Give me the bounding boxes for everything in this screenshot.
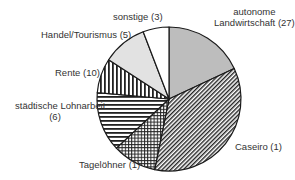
label-line: städtische Lohnarbeit	[15, 100, 95, 111]
label-tageloehner: Tagelöhner (1)	[79, 159, 140, 170]
label-sonstige: sonstige (3)	[113, 11, 163, 22]
label-rente: Rente (10)	[55, 67, 100, 78]
label-caseiro: Caseiro (1)	[235, 141, 282, 152]
pie-slices	[97, 27, 241, 171]
label-handel-tourismus: Handel/Tourismus (5)	[41, 29, 131, 40]
label-line: (6)	[15, 111, 95, 122]
label-staedtische-lohnarbeit: städtische Lohnarbeit (6)	[15, 100, 95, 122]
label-autonome-landwirtschaft: autonome Landwirtschaft (27)	[214, 6, 295, 28]
label-line: autonome	[214, 6, 295, 17]
label-line: Landwirtschaft (27)	[214, 17, 295, 28]
